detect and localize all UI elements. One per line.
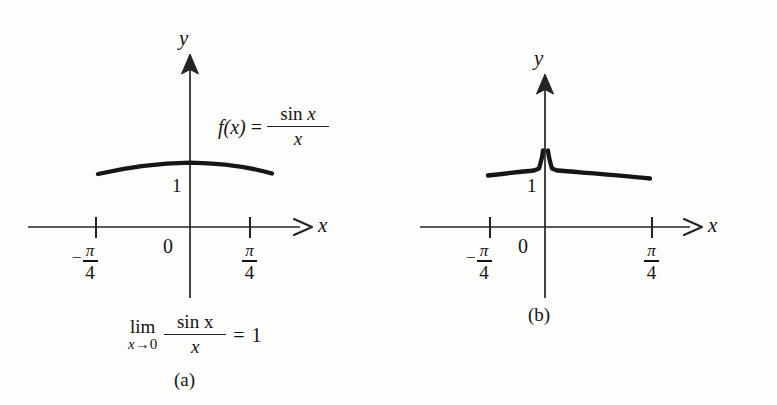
panel-b-tick-left-numerator: π bbox=[478, 242, 491, 260]
panel-b-x-axis-label: x bbox=[708, 215, 717, 236]
math-figure: y x 0 1 − π 4 π 4 bbox=[0, 0, 777, 405]
panel-b-label: (b) bbox=[528, 305, 550, 324]
panel-b-curve-right-branch bbox=[548, 151, 650, 179]
panel-b-tick-left-denominator: 4 bbox=[479, 262, 489, 282]
panel-b-tick-right-numerator: π bbox=[645, 242, 658, 260]
panel-b-tick-label-left: − π 4 bbox=[466, 242, 492, 282]
panel-b-y-axis-label: y bbox=[534, 48, 543, 69]
panel-b-curve-left-branch bbox=[488, 151, 543, 176]
panel-b-origin-label: 0 bbox=[518, 236, 528, 256]
panel-b: y x 0 1 − π 4 π 4 (b) bbox=[0, 0, 777, 405]
panel-b-tick-label-right: π 4 bbox=[644, 242, 659, 282]
panel-b-tick-right-denominator: 4 bbox=[647, 262, 657, 282]
panel-b-tick-left-minus: − bbox=[466, 249, 477, 266]
panel-b-unit-label: 1 bbox=[527, 176, 537, 195]
panel-b-axes bbox=[0, 0, 777, 405]
